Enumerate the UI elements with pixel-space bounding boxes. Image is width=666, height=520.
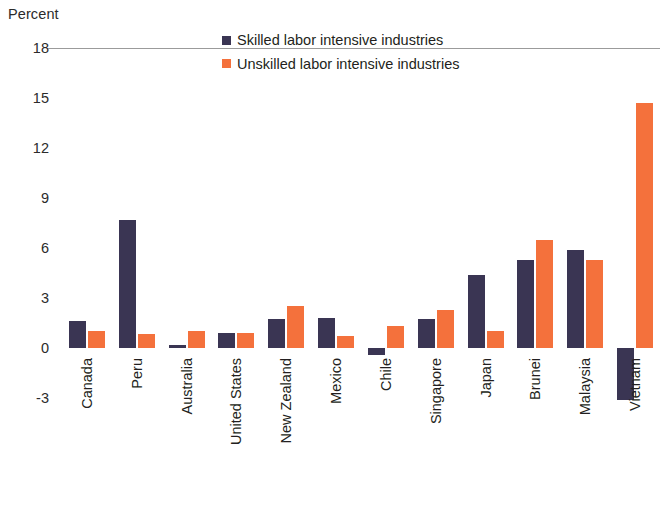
x-axis-category-label: Chile <box>378 358 394 391</box>
bar-unskilled <box>536 240 553 348</box>
legend-label-skilled: Skilled labor intensive industries <box>237 33 443 48</box>
x-axis-category-label: New Zealand <box>278 358 294 443</box>
bar-unskilled <box>487 331 504 348</box>
y-tick-3: 3 <box>41 290 49 306</box>
bar-group <box>62 48 112 348</box>
bar-unskilled <box>337 336 354 349</box>
x-axis-category-label: Canada <box>79 358 95 409</box>
x-axis-category: Japan <box>461 352 511 520</box>
bar-unskilled <box>636 103 653 348</box>
bar-skilled <box>119 220 136 348</box>
x-axis-category: Mexico <box>311 352 361 520</box>
bar-skilled <box>218 333 235 348</box>
bar-group <box>610 48 660 348</box>
bar-groups <box>62 48 660 348</box>
bar-unskilled <box>287 306 304 348</box>
x-axis-category-label: Australia <box>179 358 195 414</box>
bar-group <box>560 48 610 348</box>
legend-swatch-skilled <box>222 36 231 45</box>
bar-chart: Percent Skilled labor intensive industri… <box>0 0 666 520</box>
bar-group <box>261 48 311 348</box>
y-tick-15: 15 <box>33 90 49 106</box>
bar-unskilled <box>188 331 205 348</box>
y-tick-6: 6 <box>41 240 49 256</box>
y-tick-neg3: -3 <box>36 390 49 406</box>
y-axis-title: Percent <box>8 6 59 22</box>
y-tick-0: 0 <box>41 340 49 356</box>
bar-group <box>211 48 261 348</box>
x-axis-category: Peru <box>112 352 162 520</box>
bar-skilled <box>517 260 534 348</box>
x-axis-category-label: Brunei <box>527 358 543 400</box>
bar-group <box>311 48 361 348</box>
x-axis-category: United States <box>211 352 261 520</box>
x-axis-category-label: Mexico <box>328 358 344 404</box>
y-tick-18: 18 <box>33 40 49 56</box>
x-axis-category: Canada <box>62 352 112 520</box>
bar-skilled <box>567 250 584 348</box>
bar-unskilled <box>88 331 105 349</box>
y-tick-9: 9 <box>41 190 49 206</box>
x-axis-category: Malaysia <box>560 352 610 520</box>
x-axis-category-label: Singapore <box>428 358 444 424</box>
bar-group <box>411 48 461 348</box>
legend-item-skilled: Skilled labor intensive industries <box>222 33 459 48</box>
bar-group <box>162 48 212 348</box>
bar-unskilled <box>387 326 404 348</box>
x-axis-category: Australia <box>162 352 212 520</box>
x-axis-category-label: Malaysia <box>577 358 593 415</box>
x-axis-category-label: Vietnam <box>627 358 643 411</box>
bar-unskilled <box>586 260 603 348</box>
x-axis-category-labels: CanadaPeruAustraliaUnited StatesNew Zeal… <box>62 352 660 520</box>
bar-group <box>361 48 411 348</box>
bar-group <box>461 48 511 348</box>
plot-area: 1815129630-3 <box>62 48 660 348</box>
x-axis-category: Brunei <box>510 352 560 520</box>
bar-skilled <box>169 345 186 348</box>
bar-skilled <box>268 319 285 348</box>
bar-unskilled <box>437 310 454 348</box>
x-axis-category: Chile <box>361 352 411 520</box>
bar-unskilled <box>237 333 254 348</box>
x-axis-category-label: United States <box>228 358 244 445</box>
bar-skilled <box>468 275 485 348</box>
x-axis-category: New Zealand <box>261 352 311 520</box>
y-tick-12: 12 <box>33 140 49 156</box>
bar-group <box>510 48 560 348</box>
bar-skilled <box>69 321 86 349</box>
bar-group <box>112 48 162 348</box>
x-axis-category-label: Peru <box>129 358 145 389</box>
bar-skilled <box>318 318 335 348</box>
x-axis-category: Singapore <box>411 352 461 520</box>
x-axis-category: Vietnam <box>610 352 660 520</box>
bar-unskilled <box>138 334 155 348</box>
x-axis-category-label: Japan <box>478 358 494 398</box>
bar-skilled <box>418 319 435 348</box>
